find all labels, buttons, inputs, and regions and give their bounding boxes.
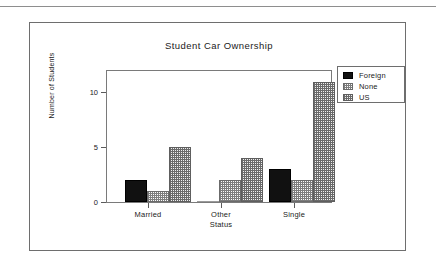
chart-page: Student Car Ownership Number of Students… [0,0,436,274]
legend-label-us: US [359,93,370,102]
bar-single-us [313,82,335,202]
bar-married-none [147,191,169,202]
bar-married-us [169,147,191,202]
x-tick-label-otherstatus: Other Status [186,210,256,229]
x-tick-label-otherstatus-line2: Status [186,220,256,230]
chart-legend: Foreign None US [337,66,405,103]
bar-single-none [291,180,313,202]
x-tick-label-otherstatus-line1: Other [186,210,256,220]
y-axis-label: Number of Students [48,26,55,146]
bar-single-foreign [269,169,291,202]
legend-item-us: US [343,92,404,103]
y-tick-label-0: 0 [74,198,98,207]
legend-swatch-us-icon [343,94,353,101]
legend-label-foreign: Foreign [359,71,386,80]
chart-title: Student Car Ownership [106,40,332,51]
y-tick-label-10: 10 [74,88,98,97]
y-tick-label-5: 5 [74,143,98,152]
x-tick-label-single-line1: Single [259,210,329,220]
x-tick-mark-married [148,203,149,208]
legend-swatch-none-icon [343,83,353,90]
x-tick-label-single: Single [259,210,329,220]
bar-otherstatus-none [219,180,241,202]
x-tick-mark-otherstatus [221,203,222,208]
bars-layer [107,71,331,202]
x-tick-mark-single [294,203,295,208]
legend-item-foreign: Foreign [343,70,404,81]
x-tick-label-married-line1: Married [113,210,183,220]
bar-otherstatus-us [241,158,263,202]
legend-item-none: None [343,81,404,92]
legend-label-none: None [359,82,378,91]
bar-married-foreign [125,180,147,202]
x-tick-label-married: Married [113,210,183,220]
bar-otherstatus-foreign [197,201,219,202]
page-top-rule [0,6,436,7]
legend-swatch-foreign-icon [343,72,353,79]
